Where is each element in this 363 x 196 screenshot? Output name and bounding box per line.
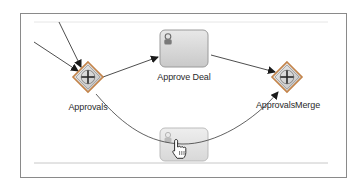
- approvals-merge-gateway-node[interactable]: [272, 62, 302, 92]
- process-diagram-canvas: Approvals Approve Deal ApprovalsMerge: [0, 0, 363, 196]
- approve-deal-label: Approve Deal: [157, 72, 210, 82]
- approve-deal-node[interactable]: [160, 30, 208, 67]
- diagram-svg: [0, 0, 363, 196]
- approvals-merge-label: ApprovalsMerge: [256, 100, 320, 110]
- edge-approvals-to-approve-deal[interactable]: [103, 57, 158, 77]
- parallel-plus-icon: [280, 70, 294, 84]
- parallel-plus-icon: [81, 70, 95, 84]
- approvals-gateway-node[interactable]: [73, 62, 103, 92]
- approvals-label: Approvals: [68, 102, 107, 112]
- edge-approve-deal-to-merge[interactable]: [211, 55, 275, 72]
